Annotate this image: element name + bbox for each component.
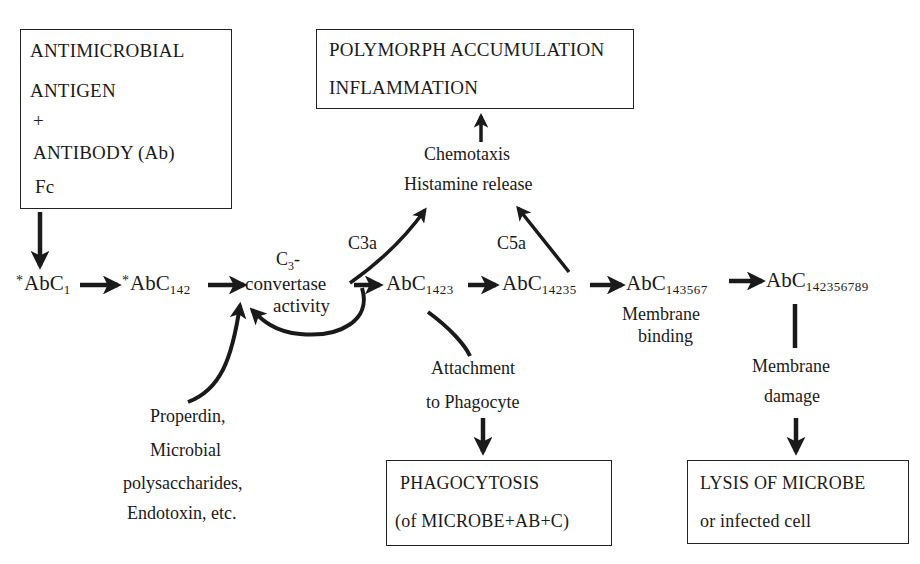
node-abc143567-sub: 143567: [666, 282, 708, 297]
node-abc1423-sub: 1423: [426, 282, 454, 297]
node-abc14235: AbC14235: [502, 271, 577, 298]
antigen-box-line-2: ANTIGEN: [30, 80, 116, 102]
lysis-box-line-2: or infected cell: [700, 511, 811, 532]
node-abc142-prefix: *: [122, 273, 129, 288]
antigen-antibody-box: ANTIMICROBIAL ANTIGEN + ANTIBODY (Ab) Fc: [20, 29, 232, 209]
node-abc143567-base: AbC: [626, 271, 666, 295]
label-membrane-binding-2: binding: [638, 326, 693, 347]
convertase-dash: -: [294, 249, 300, 269]
polymorph-inflammation-box: POLYMORPH ACCUMULATION INFLAMMATION: [316, 29, 634, 109]
node-abc142-sub: 142: [170, 282, 191, 297]
label-histamine-release: Histamine release: [404, 174, 532, 195]
node-abc142356789-base: AbC: [766, 268, 806, 292]
node-abc142-base: AbC: [130, 271, 170, 295]
label-membrane-damage-2: damage: [764, 386, 820, 407]
node-abc1-sub: 1: [64, 282, 71, 297]
node-abc1423-base: AbC: [386, 271, 426, 295]
lysis-box-line-1: LYSIS OF MICROBE: [700, 473, 865, 494]
polymorph-box-line-1: POLYMORPH ACCUMULATION: [329, 39, 604, 61]
label-properdin-1: Properdin,: [150, 406, 226, 427]
node-abc142356789: AbC142356789: [766, 268, 869, 295]
phagocytosis-box-line-2: (of MICROBE+AB+C): [395, 511, 569, 532]
node-abc14235-base: AbC: [502, 271, 542, 295]
convertase-line-2: convertase: [245, 273, 326, 295]
phagocytosis-box-line-1: PHAGOCYTOSIS: [400, 473, 539, 494]
label-properdin-3: polysaccharides,: [123, 473, 242, 494]
node-abc1: *AbC1: [16, 271, 71, 298]
phagocytosis-box: PHAGOCYTOSIS (of MICROBE+AB+C): [386, 460, 612, 546]
polymorph-box-line-2: INFLAMMATION: [329, 77, 478, 99]
arrow-properdin-to-convertase: [188, 305, 240, 402]
label-membrane-damage-1: Membrane: [752, 356, 830, 377]
label-attachment-1: Attachment: [431, 358, 515, 379]
label-chemotaxis: Chemotaxis: [424, 144, 510, 165]
convertase-c-letter: C: [276, 249, 288, 269]
node-abc1423: AbC1423: [386, 271, 454, 298]
antigen-box-line-5: Fc: [35, 176, 54, 198]
label-c5a: C5a: [497, 233, 526, 254]
line-abc1423-to-attachment: [428, 312, 470, 356]
node-abc142356789-sub: 142356789: [806, 279, 869, 294]
antigen-box-line-3: +: [33, 110, 44, 132]
node-abc143567: AbC143567: [626, 271, 708, 298]
label-properdin-4: Endotoxin, etc.: [127, 503, 236, 524]
label-membrane-binding-1: Membrane: [622, 304, 700, 325]
label-c3a: C3a: [348, 233, 377, 254]
antigen-box-line-1: ANTIMICROBIAL: [30, 40, 185, 62]
antigen-box-line-4: ANTIBODY (Ab): [33, 142, 175, 164]
convertase-line-3: activity: [273, 295, 330, 317]
node-abc14235-sub: 14235: [542, 282, 577, 297]
label-properdin-2: Microbial: [150, 440, 221, 461]
node-abc1-base: AbC: [24, 271, 64, 295]
label-attachment-2: to Phagocyte: [426, 392, 519, 413]
node-abc1-prefix: *: [16, 273, 23, 288]
node-abc142: *AbC142: [122, 271, 191, 298]
lysis-box: LYSIS OF MICROBE or infected cell: [687, 460, 909, 544]
convertase-c3: C3-: [276, 249, 300, 274]
